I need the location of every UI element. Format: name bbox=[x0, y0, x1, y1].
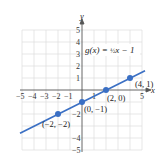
svg-text:−4: −4 bbox=[28, 92, 37, 101]
point-neg2-neg2 bbox=[55, 111, 61, 117]
svg-text:5: 5 bbox=[140, 92, 144, 101]
function-graph: x y −5 −4 −3 −2 −1 1 5 5 4 3 2 1 −2 −4 −… bbox=[0, 0, 160, 159]
svg-text:g(x) = ½x − 1: g(x) = ½x − 1 bbox=[85, 45, 134, 55]
point-label-4-1: (4, 1) bbox=[135, 79, 154, 89]
svg-text:−2: −2 bbox=[72, 110, 81, 119]
y-tick-labels: 5 4 3 2 1 −2 −4 −5 bbox=[72, 26, 81, 155]
svg-text:−4: −4 bbox=[72, 134, 81, 143]
svg-text:5: 5 bbox=[76, 26, 80, 35]
svg-text:−2: −2 bbox=[52, 92, 61, 101]
svg-text:−3: −3 bbox=[40, 92, 49, 101]
point-label-0-neg1: (0, −1) bbox=[84, 104, 107, 114]
point-4-1 bbox=[127, 75, 133, 81]
svg-text:1: 1 bbox=[76, 74, 80, 83]
point-label-neg2-neg2: (−2, −2) bbox=[42, 119, 70, 129]
point-label-2-0: (2, 0) bbox=[107, 93, 126, 103]
svg-text:−1: −1 bbox=[64, 92, 73, 101]
axes bbox=[20, 19, 151, 152]
function-label: g(x) = ½x − 1 bbox=[84, 44, 140, 56]
svg-text:−5: −5 bbox=[16, 92, 25, 101]
svg-text:3: 3 bbox=[76, 50, 80, 59]
y-axis-label: y bbox=[79, 11, 84, 21]
svg-text:−5: −5 bbox=[72, 146, 81, 155]
svg-text:2: 2 bbox=[76, 62, 80, 71]
svg-text:4: 4 bbox=[76, 38, 80, 47]
